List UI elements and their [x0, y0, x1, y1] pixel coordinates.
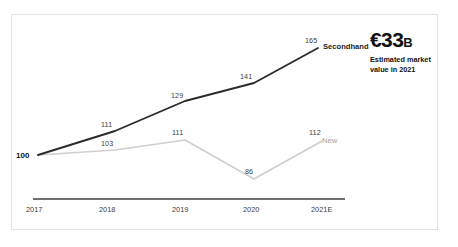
origin-value-label: 100 — [16, 151, 29, 160]
series-label-new: New — [322, 136, 337, 145]
headline-value: €33B — [370, 29, 450, 50]
point-label-new-2021: 112 — [309, 128, 321, 137]
series-line-secondhand — [38, 48, 318, 155]
x-tick-2021e: 2021E — [311, 205, 332, 214]
x-tick-2019: 2019 — [172, 205, 188, 214]
point-label-secondhand-2020: 141 — [240, 72, 252, 81]
point-label-new-2019: 111 — [172, 128, 183, 137]
chart-figure: 100 111 129 141 165 Secondhand 103 111 8… — [0, 0, 458, 247]
point-label-secondhand-2019: 129 — [171, 91, 183, 100]
x-tick-2017: 2017 — [26, 205, 42, 214]
point-label-new-2018: 103 — [101, 139, 113, 148]
headline-caption: Estimated market value in 2021 — [370, 55, 444, 74]
point-label-secondhand-2018: 111 — [101, 120, 112, 129]
x-tick-2018: 2018 — [99, 205, 115, 214]
x-tick-2020: 2020 — [243, 205, 259, 214]
point-label-secondhand-2021: 165 — [305, 36, 317, 45]
headline-value-unit: B — [403, 35, 412, 50]
point-label-new-2020: 86 — [245, 167, 253, 176]
headline-value-number: €33 — [370, 28, 403, 51]
headline-callout: €33B Estimated market value in 2021 — [370, 29, 450, 74]
series-line-new — [38, 140, 322, 179]
series-label-secondhand: Secondhand — [323, 42, 369, 51]
